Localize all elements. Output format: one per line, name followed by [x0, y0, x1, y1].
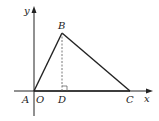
- point-C-label: C: [126, 94, 134, 105]
- side-AB: [34, 33, 62, 91]
- x-axis-label: x: [144, 93, 150, 104]
- coordinate-diagram: y B A O D C x: [0, 0, 159, 121]
- y-axis-arrow-icon: [32, 6, 37, 13]
- point-D-label: D: [57, 94, 66, 105]
- y-axis-label: y: [23, 5, 30, 16]
- origin-label: O: [36, 94, 44, 105]
- point-B-label: B: [57, 20, 65, 31]
- right-angle-icon: [62, 86, 67, 91]
- side-BC: [62, 33, 130, 91]
- point-A-label: A: [21, 94, 29, 105]
